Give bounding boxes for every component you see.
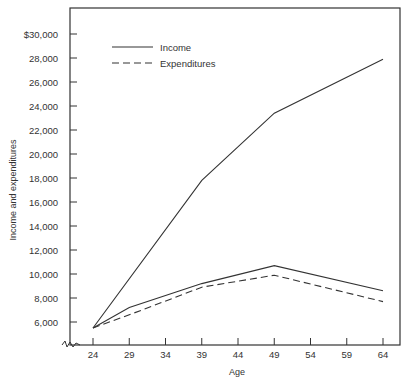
x-tick-label: 29 [124,349,135,360]
y-axis-title: Income and expenditures [8,139,18,241]
y-tick-label: 10,000 [29,269,58,280]
data-lines [93,59,383,328]
x-tick-label: 24 [88,349,99,360]
series-line-income [93,59,383,328]
y-tick-label: 14,000 [29,221,58,232]
x-tick-label: 49 [269,349,280,360]
y-tick-label: 18,000 [29,173,58,184]
y-tick-label: 24,000 [29,101,58,112]
legend-label: Income [160,42,191,53]
y-tick-label: 28,000 [29,53,58,64]
x-tick-label: 34 [160,349,171,360]
x-tick-label: 64 [378,349,389,360]
line-chart: 6,0008,00010,00012,00014,00016,00018,000… [0,0,409,388]
x-tick-label: 44 [233,349,244,360]
y-tick-label: 26,000 [29,77,58,88]
x-tick-label: 39 [196,349,207,360]
y-tick-label: 20,000 [29,149,58,160]
x-axis-title: Age [229,367,245,377]
y-tick-label: $30,000 [24,29,58,40]
y-tick-label: 8,000 [34,293,58,304]
y-axis: 6,0008,00010,00012,00014,00016,00018,000… [24,29,77,328]
legend: IncomeExpenditures [112,42,216,69]
y-tick-label: 6,000 [34,317,58,328]
x-tick-label: 59 [341,349,352,360]
y-tick-label: 16,000 [29,197,58,208]
series-line-income [93,266,383,328]
y-tick-label: 12,000 [29,245,58,256]
x-tick-label: 54 [305,349,316,360]
legend-label: Expenditures [160,58,216,69]
plot-frame [62,8,400,347]
x-axis: 242934394449545964 [88,338,389,360]
y-tick-label: 22,000 [29,125,58,136]
series-line-expenditures [93,275,383,328]
